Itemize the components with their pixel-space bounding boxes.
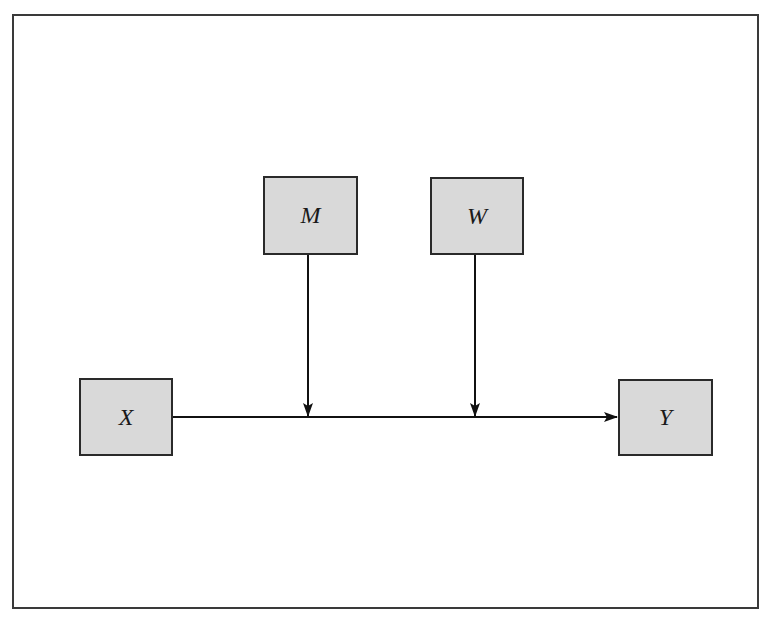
- node-x: X: [79, 378, 173, 456]
- node-x-label: X: [119, 404, 134, 431]
- edges-layer: [0, 0, 771, 620]
- node-m: M: [263, 176, 358, 255]
- node-m-label: M: [301, 202, 321, 229]
- node-w-label: W: [467, 203, 487, 230]
- node-y: Y: [618, 379, 713, 456]
- node-w: W: [430, 177, 524, 255]
- node-y-label: Y: [659, 404, 672, 431]
